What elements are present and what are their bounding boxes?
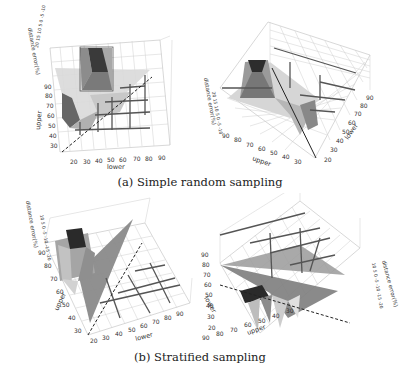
svg-text:90: 90 (202, 334, 210, 341)
svg-text:20: 20 (208, 324, 216, 331)
svg-text:30: 30 (74, 327, 82, 334)
svg-text:30: 30 (294, 158, 302, 165)
svg-text:60: 60 (258, 145, 266, 152)
svg-text:70: 70 (133, 155, 141, 162)
svg-text:80: 80 (360, 102, 368, 109)
svg-text:30: 30 (286, 307, 294, 314)
surface (220, 245, 345, 331)
svg-text:90: 90 (44, 83, 52, 90)
z-axis-ticks: 10 5 0 -5 -10 -15 -20 (371, 262, 384, 309)
plot-a-right: 90 80 70 60 50 40 30 upper 20 30 40 50 6… (200, 0, 400, 170)
svg-text:80: 80 (44, 262, 52, 269)
svg-text:20: 20 (90, 337, 98, 343)
svg-text:70: 70 (230, 326, 238, 333)
upper-axis-ticks: 30 40 50 60 70 80 90 (44, 83, 58, 149)
svg-text:60: 60 (47, 112, 55, 119)
upper-axis-label: upper (34, 110, 44, 130)
svg-text:40: 40 (49, 132, 57, 139)
svg-text:70: 70 (354, 110, 362, 117)
lower-axis-label: lower (343, 122, 360, 141)
svg-text:70: 70 (46, 102, 54, 109)
svg-text:80: 80 (202, 261, 210, 268)
svg-text:60: 60 (140, 322, 148, 329)
svg-text:90: 90 (38, 249, 46, 256)
plot-a-left: 20 30 40 50 60 70 80 90 lower 30 40 50 6… (0, 0, 200, 170)
surface (55, 47, 150, 130)
svg-text:60: 60 (119, 156, 127, 163)
svg-text:10 5 0 -5 -10 -15 -20: 10 5 0 -5 -10 -15 -20 (371, 262, 384, 309)
svg-text:50: 50 (270, 149, 278, 156)
svg-text:40: 40 (115, 330, 123, 337)
lower-axis-label: lower (202, 295, 218, 315)
svg-text:60: 60 (204, 281, 212, 288)
svg-text:70: 70 (246, 141, 254, 148)
lower-axis-ticks: 20 30 40 50 60 70 80 90 (201, 251, 216, 331)
svg-text:80: 80 (164, 314, 172, 321)
svg-text:80: 80 (216, 330, 224, 337)
svg-text:80: 80 (145, 155, 153, 162)
svg-text:40: 40 (272, 312, 280, 319)
svg-text:90: 90 (201, 251, 209, 258)
z-axis-label: distance error(%) (381, 260, 399, 308)
lower-axis-label: lower (134, 331, 154, 343)
svg-text:20: 20 (70, 158, 78, 165)
svg-text:70: 70 (152, 318, 160, 325)
svg-text:30: 30 (102, 334, 110, 341)
svg-text:50: 50 (128, 326, 136, 333)
svg-text:30: 30 (50, 142, 58, 149)
svg-text:50: 50 (107, 156, 115, 163)
svg-text:40: 40 (336, 137, 344, 144)
svg-text:90: 90 (158, 154, 166, 161)
svg-text:80: 80 (45, 92, 53, 99)
svg-text:40: 40 (282, 153, 290, 160)
svg-text:30: 30 (83, 158, 91, 165)
svg-text:40: 40 (95, 157, 103, 164)
svg-text:50: 50 (48, 122, 56, 129)
plot-b-right: 20 30 40 50 60 70 80 90 lower 90 80 70 6… (200, 193, 400, 343)
caption-b: (b) Stratified sampling (0, 350, 400, 364)
svg-text:90: 90 (176, 310, 184, 317)
svg-text:30: 30 (330, 146, 338, 153)
svg-text:70: 70 (203, 271, 211, 278)
svg-text:90: 90 (366, 94, 374, 101)
caption-a: (a) Simple random sampling (0, 175, 400, 189)
svg-text:70: 70 (50, 275, 58, 282)
svg-text:20: 20 (324, 156, 332, 163)
upper-axis-label: upper (251, 154, 272, 168)
svg-text:30: 30 (207, 313, 215, 320)
z-axis-label: distance error(%) (25, 200, 39, 248)
svg-text:40: 40 (68, 314, 76, 321)
lower-axis-label: lower (107, 163, 125, 170)
svg-text:80: 80 (234, 136, 242, 143)
plot-b-left: 20 30 40 50 60 70 80 90 lower 30 40 50 6… (0, 193, 200, 343)
